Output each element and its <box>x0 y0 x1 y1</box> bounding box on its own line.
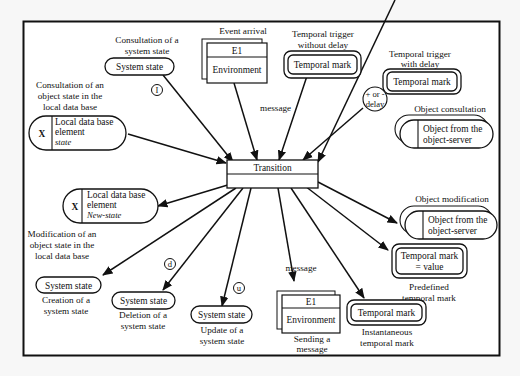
object-box-line: Object from the <box>428 215 487 225</box>
delay-badge-line: delay <box>366 99 385 109</box>
caption-line: Creation of a <box>42 295 90 305</box>
db-element-line: Local data base <box>87 190 145 200</box>
delete-badge: d <box>168 259 173 269</box>
node-object-modification: Object modification Object from the obje… <box>400 194 497 239</box>
caption-line: temporal mark <box>360 338 414 348</box>
environment-id: E1 <box>232 46 243 56</box>
environment-id: E1 <box>306 297 317 307</box>
caption-line: Object modification <box>415 194 489 204</box>
temporal-mark-label: Temporal mark <box>294 60 352 70</box>
caption-line: local data base <box>35 251 89 261</box>
edge-label: message <box>260 103 291 113</box>
caption-line: Temporal trigger <box>292 29 354 39</box>
caption-line: Update of a <box>201 325 244 335</box>
caption-line: system state <box>200 336 245 346</box>
db-element-line: element <box>87 200 117 210</box>
caption-line: Event arrival <box>219 26 267 36</box>
db-element-line: element <box>55 127 85 137</box>
temporal-mark-line: = value <box>416 262 444 272</box>
caption-line: system state <box>121 321 166 331</box>
caption-line: with delay <box>401 59 440 69</box>
system-state-box-label: System state <box>198 310 245 320</box>
node-trigger-no-delay: Temporal trigger without delay Temporal … <box>284 29 361 78</box>
caption-line: system state <box>44 306 89 316</box>
transition-diagram: Transition Consultation of a system stat… <box>0 0 520 376</box>
caption-line: Predefined <box>409 282 449 292</box>
caption-line: Sending a <box>294 334 331 344</box>
db-element-line: Local data base <box>55 117 113 127</box>
db-element-state: state <box>55 137 71 147</box>
edge-label: message <box>285 263 316 273</box>
caption-line: Instantaneous <box>362 327 413 337</box>
environment-label: Environment <box>213 65 262 75</box>
update-badge: u <box>237 283 242 293</box>
caption-line: system state <box>125 46 170 56</box>
environment-label: Environment <box>287 315 336 325</box>
consult-badge: I <box>156 85 159 95</box>
temporal-mark-label: Temporal mark <box>393 77 451 87</box>
caption-line: object state in the <box>38 91 103 101</box>
transition-label: Transition <box>253 163 292 173</box>
system-state-box-label: System state <box>120 296 167 306</box>
system-state-box-label: System state <box>45 281 92 291</box>
object-box-line: object-server <box>428 226 478 236</box>
object-box-line: Object from the <box>423 124 482 134</box>
caption-line: object state in the <box>30 240 95 250</box>
delay-badge-line: + or - <box>365 89 384 99</box>
caption-line: Deletion of a <box>119 310 167 320</box>
caption-line: Consultation of an <box>36 80 104 90</box>
caption-line: local data base <box>43 102 97 112</box>
temporal-mark-label: Temporal mark <box>358 308 416 318</box>
caption-line: Object consultation <box>414 104 486 114</box>
marker-x: X <box>39 129 46 139</box>
node-predefined-mark: Temporal mark = value Predefined tempora… <box>392 244 467 303</box>
object-box-line: object-server <box>423 135 473 145</box>
marker-x: X <box>72 202 79 212</box>
caption-line: without delay <box>298 40 349 50</box>
transition-node: Transition <box>227 160 318 188</box>
caption-line: Temporal trigger <box>389 49 451 59</box>
db-element-new-state: New-state <box>86 210 122 220</box>
caption-line: Consultation of a <box>115 35 178 45</box>
system-state-box-label: System state <box>116 62 163 72</box>
temporal-mark-line: Temporal mark <box>401 251 459 261</box>
caption-line: message <box>296 344 327 354</box>
caption-line: Modification of an <box>28 229 97 239</box>
